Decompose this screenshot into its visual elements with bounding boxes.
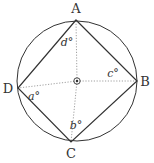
vertex-label-A: A (70, 1, 81, 16)
angle-label-b: b° (70, 119, 83, 132)
diagram-canvas: A B C D d° c° b° a° (0, 0, 154, 163)
circle-quadrilateral-diagram: A B C D d° c° b° a° (0, 0, 154, 163)
radius-to-A (76, 20, 77, 81)
angle-label-c: c° (107, 67, 119, 80)
angle-label-d: d° (61, 36, 74, 49)
vertex-label-D: D (3, 81, 13, 96)
radius-to-C (71, 81, 77, 142)
vertex-label-C: C (66, 146, 76, 161)
vertex-label-B: B (140, 74, 150, 89)
center-dot-icon (76, 80, 78, 82)
radius-to-D (18, 81, 77, 88)
angle-label-a: a° (28, 90, 40, 103)
